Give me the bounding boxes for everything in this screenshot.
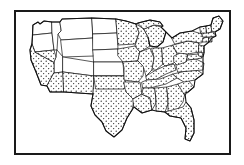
state-north-carolina	[173, 70, 203, 82]
state-oregon	[32, 33, 54, 52]
state-north-dakota	[92, 18, 117, 34]
state-south-dakota	[93, 33, 118, 50]
state-new-mexico	[63, 72, 94, 94]
state-minnesota	[116, 19, 139, 45]
figure-root: Contiguous United States black-and-white…	[0, 0, 244, 165]
state-oklahoma	[94, 76, 126, 89]
state-alabama	[155, 87, 168, 112]
state-kansas	[94, 62, 124, 76]
state-indiana	[152, 48, 163, 70]
state-montana	[58, 18, 93, 40]
state-utah	[54, 50, 63, 73]
state-new-jersey	[199, 45, 204, 53]
state-wyoming	[61, 38, 94, 57]
us-map-figure	[0, 0, 244, 165]
state-connecticut	[203, 37, 209, 42]
